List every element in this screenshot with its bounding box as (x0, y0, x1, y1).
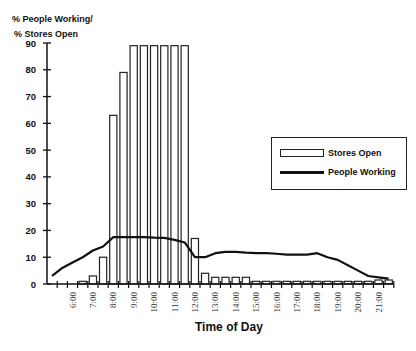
y-tick-label: 40 (25, 171, 36, 182)
bar-stores-open (212, 277, 219, 284)
x-tick-label: 7:00 (88, 292, 98, 309)
x-tick-label: 15:00 (251, 292, 261, 313)
line-swatch-icon (280, 171, 324, 174)
x-tick-label: 9:00 (129, 292, 139, 309)
x-tick-label: 13:00 (210, 292, 220, 313)
bar-stores-open (191, 238, 198, 284)
x-tick-label: 11:00 (170, 292, 180, 313)
x-tick-label: 20:00 (353, 292, 363, 313)
x-axis-title: Time of Day (195, 320, 263, 334)
legend-label: Stores Open (328, 148, 382, 158)
bar-stores-open (110, 115, 117, 284)
bar-stores-open (130, 46, 137, 284)
bar-stores-open (151, 46, 158, 284)
legend-label: People Working (328, 167, 396, 177)
y-tick-label: 10 (25, 252, 36, 263)
bar-stores-open (140, 46, 147, 284)
bar-stores-open (161, 46, 168, 284)
y-tick-label: 70 (25, 91, 36, 102)
x-tick-label: 17:00 (292, 292, 302, 313)
y-tick-label: 80 (25, 64, 36, 75)
bar-stores-open (120, 72, 127, 284)
y-tick-label: 90 (25, 38, 36, 49)
x-tick-label: 21:00 (374, 292, 384, 313)
x-tick-label: 10:00 (149, 292, 159, 313)
x-tick-label: 12:00 (190, 292, 200, 313)
bar-stores-open (100, 257, 107, 284)
x-tick-label: 14:00 (231, 292, 241, 313)
x-tick-label: 6:00 (68, 292, 78, 309)
y-tick-label: 60 (25, 118, 36, 129)
bar-stores-open (242, 277, 249, 284)
bar-stores-open (171, 46, 178, 284)
x-tick-label: 19:00 (333, 292, 343, 313)
x-tick-label: 8:00 (108, 292, 118, 309)
y-tick-label: 0 (31, 279, 36, 290)
legend-item-people-working: People Working (280, 167, 396, 177)
x-tick-label: 18:00 (312, 292, 322, 313)
y-tick-label: 30 (25, 198, 36, 209)
bar-swatch-icon (280, 149, 324, 157)
bar-stores-open (89, 276, 96, 284)
x-tick-label: 16:00 (272, 292, 282, 313)
bar-stores-open (181, 46, 188, 284)
bar-stores-open (202, 273, 209, 284)
y-tick-label: 20 (25, 225, 36, 236)
bar-stores-open (222, 277, 229, 284)
legend: Stores Open People Working (271, 137, 407, 190)
legend-item-stores-open: Stores Open (280, 148, 382, 158)
y-tick-label: 50 (25, 145, 36, 156)
bar-stores-open (232, 277, 239, 284)
